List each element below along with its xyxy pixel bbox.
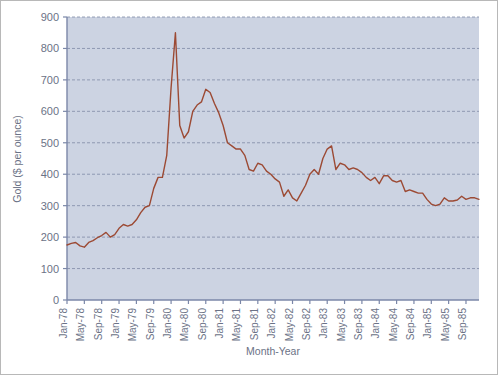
x-tick-label: May-84 (388, 308, 399, 342)
x-tick-label: May-79 (127, 308, 138, 342)
x-tick-label: Sep-78 (93, 308, 104, 341)
x-tick-label: Jan-80 (162, 308, 173, 339)
chart-canvas: 0100200300400500600700800900 Jan-78May-7… (1, 1, 498, 375)
y-tick-label: 700 (41, 74, 59, 86)
plot-area-background (67, 17, 479, 300)
x-tick-label: Sep-84 (405, 308, 416, 341)
x-tick-label: May-80 (179, 308, 190, 342)
x-tick-label: Jan-78 (58, 308, 69, 339)
x-axis-ticks: Jan-78May-78Sep-78Jan-79May-79Sep-79Jan-… (58, 300, 468, 341)
y-tick-label: 200 (41, 231, 59, 243)
x-tick-label: May-83 (336, 308, 347, 342)
x-tick-label: Sep-81 (249, 308, 260, 341)
y-tick-label: 300 (41, 200, 59, 212)
y-axis-title: Gold ($ per ounce) (11, 115, 23, 203)
y-tick-label: 600 (41, 105, 59, 117)
y-tick-label: 0 (53, 294, 59, 306)
x-tick-label: May-78 (75, 308, 86, 342)
x-tick-label: May-81 (231, 308, 242, 342)
x-tick-label: Sep-80 (197, 308, 208, 341)
x-tick-label: Sep-79 (145, 308, 156, 341)
x-tick-label: Sep-85 (457, 308, 468, 341)
x-axis-title: Month-Year (246, 345, 300, 357)
gold-price-line-chart: 0100200300400500600700800900 Jan-78May-7… (0, 0, 498, 375)
x-tick-label: May-85 (440, 308, 451, 342)
y-axis-ticks: 0100200300400500600700800900 (41, 11, 67, 306)
y-tick-label: 400 (41, 168, 59, 180)
x-tick-label: Jan-82 (266, 308, 277, 339)
x-tick-label: May-82 (284, 308, 295, 342)
y-tick-label: 900 (41, 11, 59, 23)
x-tick-label: Jan-81 (214, 308, 225, 339)
x-tick-label: Sep-83 (353, 308, 364, 341)
x-tick-label: Jan-84 (370, 308, 381, 339)
y-tick-label: 100 (41, 263, 59, 275)
y-tick-label: 500 (41, 137, 59, 149)
x-tick-label: Sep-82 (301, 308, 312, 341)
y-tick-label: 800 (41, 42, 59, 54)
x-tick-label: Jan-85 (422, 308, 433, 339)
x-tick-label: Jan-83 (318, 308, 329, 339)
x-tick-label: Jan-79 (110, 308, 121, 339)
